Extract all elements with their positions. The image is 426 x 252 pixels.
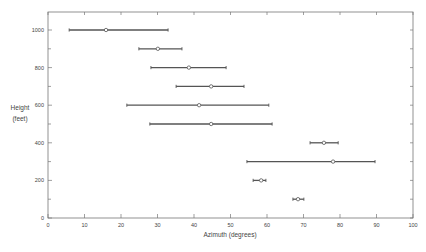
y-axis-title-line1: Height: [11, 104, 30, 112]
x-tick-label: 30: [154, 222, 160, 228]
x-axis: 0102030405060708090100: [46, 12, 417, 228]
y-tick-label: 600: [35, 102, 44, 108]
mean-marker: [259, 179, 262, 182]
error-bar: [176, 85, 244, 88]
error-bar: [69, 28, 168, 31]
x-tick-label: 40: [191, 222, 197, 228]
mean-marker: [209, 122, 212, 125]
x-tick-label: 50: [227, 222, 233, 228]
mean-marker: [322, 141, 325, 144]
chart: 0102030405060708090100 02004006008001000…: [0, 0, 426, 252]
error-bar: [127, 104, 269, 107]
error-bar: [253, 179, 266, 182]
mean-marker: [209, 85, 212, 88]
mean-marker: [296, 198, 299, 201]
y-tick-label: 200: [35, 177, 44, 183]
x-tick-label: 70: [300, 222, 306, 228]
y-tick-label: 400: [35, 140, 44, 146]
error-bar: [293, 198, 304, 201]
error-bar: [151, 66, 226, 69]
mean-marker: [156, 47, 159, 50]
error-bar: [247, 160, 375, 163]
mean-marker: [197, 104, 200, 107]
x-tick-label: 90: [373, 222, 379, 228]
x-tick-label: 20: [118, 222, 124, 228]
error-bar: [139, 47, 182, 50]
x-tick-label: 0: [46, 222, 49, 228]
y-tick-label: 1000: [32, 27, 44, 33]
mean-marker: [331, 160, 334, 163]
x-tick-label: 80: [337, 222, 343, 228]
x-tick-label: 60: [264, 222, 270, 228]
plot-frame: [48, 12, 413, 218]
x-tick-label: 100: [408, 222, 417, 228]
x-axis-title: Azimuth (degrees): [203, 231, 256, 239]
mean-marker: [187, 66, 190, 69]
error-bar: [310, 141, 338, 144]
error-bars: [69, 28, 375, 201]
y-tick-label: 800: [35, 65, 44, 71]
error-bar: [150, 122, 272, 125]
mean-marker: [104, 28, 107, 31]
y-tick-label: 0: [41, 215, 44, 221]
x-tick-label: 10: [81, 222, 87, 228]
y-axis-title-line2: (feet): [12, 115, 27, 123]
